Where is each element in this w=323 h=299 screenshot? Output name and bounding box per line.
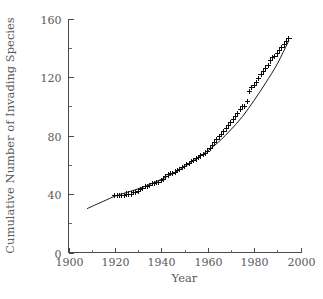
x-tick-label: 1960 bbox=[195, 256, 223, 269]
y-tick-label: 40 bbox=[48, 189, 62, 202]
chart-figure: 19001920194019601980200004080120160YearC… bbox=[0, 0, 323, 299]
data-markers bbox=[112, 36, 291, 198]
y-tick-label: 160 bbox=[41, 14, 62, 27]
x-tick-label: 1920 bbox=[102, 256, 130, 269]
x-tick-label: 1940 bbox=[148, 256, 176, 269]
axes-group: 19001920194019601980200004080120160YearC… bbox=[3, 14, 316, 286]
x-tick-label: 1980 bbox=[241, 256, 269, 269]
fitted-curve bbox=[87, 40, 289, 208]
x-axis-title: Year bbox=[171, 271, 198, 285]
x-tick-label: 2000 bbox=[288, 256, 316, 269]
y-axis-title: Cumulative Number of Invading Species bbox=[3, 17, 17, 254]
y-tick-label: 120 bbox=[41, 72, 62, 85]
y-tick-label: 80 bbox=[48, 131, 62, 144]
y-tick-label: 0 bbox=[55, 248, 62, 261]
axis-spines bbox=[69, 19, 301, 253]
scatter-plot: 19001920194019601980200004080120160YearC… bbox=[0, 0, 323, 299]
